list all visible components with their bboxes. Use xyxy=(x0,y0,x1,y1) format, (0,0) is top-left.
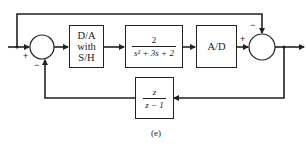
adc-block: A/D xyxy=(196,25,237,68)
dac-label-line3: S/H xyxy=(77,52,96,63)
adc-label: A/D xyxy=(207,41,225,52)
dac-sample-hold-block: D/A with S/H xyxy=(69,25,104,68)
plant-numerator: 2 xyxy=(150,35,159,46)
feedback-denominator: z − 1 xyxy=(143,98,166,110)
figure-caption: (e) xyxy=(151,128,161,138)
right-summer-minus-sign: − xyxy=(250,20,255,30)
dac-label-line2: with xyxy=(77,41,96,52)
plant-fraction: 2 s² + 3s + 2 xyxy=(132,35,176,58)
left-summer-plus-sign: + xyxy=(23,51,28,61)
feedback-controller-block: z z − 1 xyxy=(135,77,174,119)
plant-transfer-function-block: 2 s² + 3s + 2 xyxy=(125,25,183,68)
left-summer-minus-sign: − xyxy=(34,60,39,70)
plant-denominator: s² + 3s + 2 xyxy=(132,46,176,58)
signal-wires xyxy=(0,0,307,147)
right-summer-plus-sign: + xyxy=(240,34,245,44)
feedback-fraction: z z − 1 xyxy=(143,87,166,110)
dac-label-line1: D/A xyxy=(77,30,96,41)
feedback-numerator: z xyxy=(151,87,159,98)
